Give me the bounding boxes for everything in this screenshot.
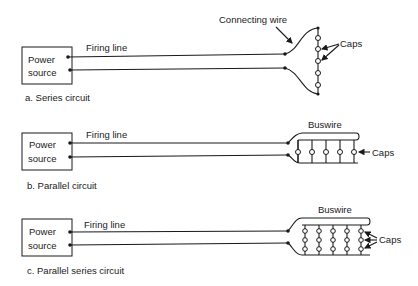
buswire-label: Buswire xyxy=(308,119,342,130)
firing-line-label: Firing line xyxy=(86,129,127,140)
parallel-series-circuit: Power source Firing line Buswire Caps c.… xyxy=(22,204,401,276)
parallel-series-caps xyxy=(303,225,364,255)
caption-series: a. Series circuit xyxy=(25,92,90,103)
cap-icon xyxy=(316,59,321,64)
power-source-label-2: source xyxy=(28,240,57,251)
power-source-label-1: Power xyxy=(29,226,56,237)
caption-parallel-series: c. Parallel series circuit xyxy=(27,265,124,276)
power-source-label-2: source xyxy=(28,67,57,78)
series-circuit: Power source Firing line Connecting wire… xyxy=(22,14,362,103)
blasting-circuit-diagrams: Power source Firing line Connecting wire… xyxy=(0,0,418,286)
cap-icon xyxy=(296,150,301,155)
cap-icon xyxy=(352,150,357,155)
power-source-label-2: source xyxy=(28,153,57,164)
connecting-wire-label: Connecting wire xyxy=(219,14,287,25)
cap-icon xyxy=(316,83,321,88)
caps-label: Caps xyxy=(340,38,362,49)
firing-line-label: Firing line xyxy=(84,219,125,230)
cap-icon xyxy=(324,150,329,155)
power-source-label-1: Power xyxy=(29,139,56,150)
firing-line-bottom xyxy=(70,68,285,70)
parallel-circuit: Power source Firing line Buswire Caps b.… xyxy=(22,119,394,191)
firing-line-top xyxy=(68,54,285,57)
connecting-wire-bottom xyxy=(285,68,318,94)
caps-label: Caps xyxy=(379,234,401,245)
cap-icon xyxy=(310,150,315,155)
caption-parallel: b. Parallel circuit xyxy=(27,180,97,191)
caps-label: Caps xyxy=(372,147,394,158)
power-source-box xyxy=(22,47,72,84)
cap-icon xyxy=(316,47,321,52)
cap-icon xyxy=(316,71,321,76)
firing-line-label: Firing line xyxy=(86,42,127,53)
cap-icon xyxy=(338,150,343,155)
power-source-label-1: Power xyxy=(28,54,55,65)
buswire-label: Buswire xyxy=(318,204,352,215)
parallel-caps xyxy=(296,140,357,163)
cap-icon xyxy=(316,36,321,41)
